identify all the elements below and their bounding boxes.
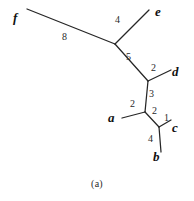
edge-weight-f-A: 8 bbox=[62, 32, 67, 42]
edge-C-a bbox=[122, 112, 145, 118]
edge-A-e bbox=[115, 10, 149, 44]
figure-container: f e d a c b 8 4 5 2 3 2 2 1 4 (a) bbox=[0, 0, 194, 201]
edge-weight-A-e: 4 bbox=[115, 15, 120, 25]
edge-weight-D-b: 4 bbox=[148, 134, 153, 144]
edge-B-C bbox=[145, 81, 148, 112]
edge-A-B bbox=[115, 44, 148, 81]
edge-f-A bbox=[27, 9, 115, 44]
edge-weight-B-d: 2 bbox=[151, 63, 156, 73]
edge-weight-C-a: 2 bbox=[130, 99, 135, 109]
taxon-label-e: e bbox=[155, 5, 161, 18]
taxon-label-c: c bbox=[172, 121, 178, 134]
taxon-label-b: b bbox=[153, 150, 160, 163]
edge-weight-C-D: 2 bbox=[152, 106, 157, 116]
edge-weight-D-c: 1 bbox=[164, 113, 169, 123]
figure-caption: (a) bbox=[0, 178, 194, 189]
tree-edges bbox=[27, 9, 171, 152]
taxon-label-f: f bbox=[13, 11, 17, 24]
tree-diagram bbox=[0, 0, 194, 201]
edge-weight-B-C: 3 bbox=[149, 89, 154, 99]
taxon-label-a: a bbox=[108, 111, 115, 124]
taxon-label-d: d bbox=[172, 65, 179, 78]
edge-weight-A-B: 5 bbox=[126, 52, 131, 62]
